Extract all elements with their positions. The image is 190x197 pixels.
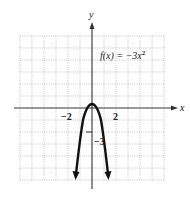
y-tick-label-neg3: −3 [94,137,105,147]
curve-arrow-right-icon [105,171,112,180]
function-label: f(x) = −3x2 [100,50,145,61]
function-label-text: f(x) = −3x [100,50,142,61]
graph-canvas [0,0,190,197]
x-axis-arrow-icon [171,106,178,111]
y-axis-label: y [89,10,93,20]
function-label-exponent: 2 [142,49,146,57]
x-tick-label-2: 2 [113,112,118,122]
x-axis-label: x [180,103,184,113]
curve-arrow-left-icon [73,171,80,180]
x-tick-label-neg2: −2 [61,112,72,122]
y-axis-arrow-icon [90,22,95,29]
